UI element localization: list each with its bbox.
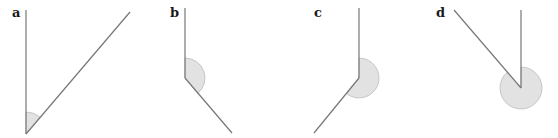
panel-d-near-full-angle	[454, 10, 542, 109]
ray-diagonal	[454, 10, 521, 88]
ray-diagonal	[185, 78, 232, 133]
ray-diagonal	[26, 12, 130, 134]
angle-figure: a b c d	[0, 0, 558, 138]
panel-b-obtuse-angle	[185, 8, 232, 133]
angles-drawing	[0, 0, 558, 138]
angle-arc	[346, 58, 379, 98]
angle-arc	[185, 58, 205, 93]
panel-c-reflex-angle	[314, 8, 379, 133]
panel-a-acute-angle	[26, 10, 130, 134]
ray-diagonal	[314, 78, 359, 133]
